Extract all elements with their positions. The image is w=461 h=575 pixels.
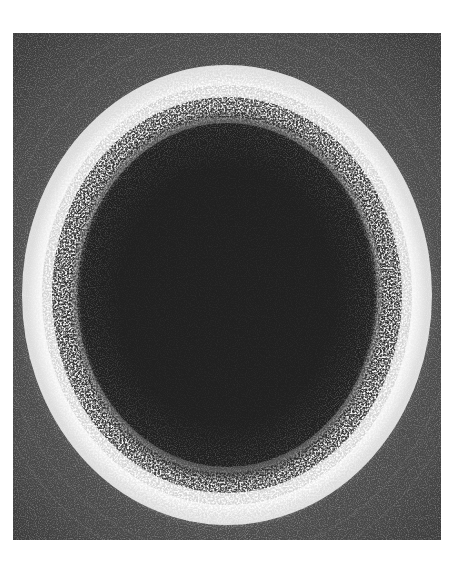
ring-photograph	[13, 33, 441, 540]
speckle-texture	[13, 33, 441, 540]
